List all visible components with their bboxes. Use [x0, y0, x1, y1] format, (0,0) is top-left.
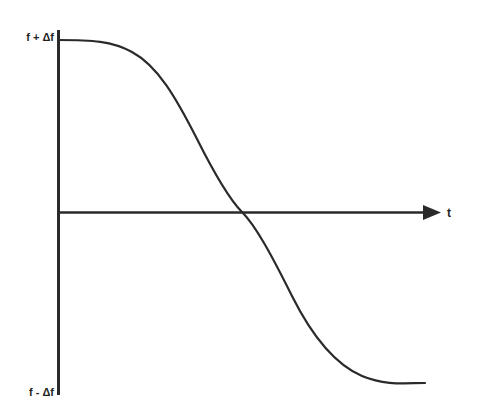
sigmoid-chart: f + Δf f - Δf t: [0, 0, 478, 416]
y-axis-top-label: f + Δf: [26, 31, 54, 43]
y-axis-bottom-label: f - Δf: [29, 386, 54, 398]
x-axis-name-label: t: [447, 206, 451, 220]
figure-root: f + Δf f - Δf t: [0, 0, 478, 416]
